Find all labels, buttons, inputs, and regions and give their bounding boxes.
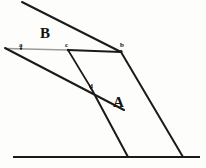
point-label-c: c	[65, 42, 68, 49]
top-oblique-line	[22, 2, 121, 52]
point-label-a: a	[19, 42, 23, 49]
left-oblique-line	[5, 48, 124, 110]
region-label-b: B	[40, 26, 51, 41]
geometry-figure: B A a c b d	[0, 0, 206, 168]
region-label-a: A	[113, 95, 124, 110]
line-b-to-baseline	[121, 52, 183, 157]
point-label-b: b	[120, 42, 124, 49]
figure-canvas	[0, 0, 206, 168]
horizontal-line-segment-ac	[5, 49, 68, 51]
point-marker-b	[119, 50, 122, 53]
horizontal-line-segment-cb	[68, 50, 121, 52]
point-marker-c	[67, 49, 69, 51]
point-label-d: d	[89, 83, 93, 90]
